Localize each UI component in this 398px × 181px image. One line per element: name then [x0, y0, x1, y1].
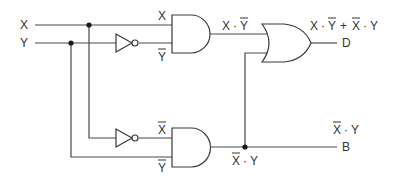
or-gate — [262, 24, 311, 62]
label-and1-ybar: Y — [158, 50, 166, 64]
label-input-y: Y — [20, 36, 28, 50]
inversion-bubble — [132, 40, 138, 46]
label-input-x: X — [20, 18, 28, 32]
label-output-d: D — [342, 36, 351, 50]
label-d-expr-x: X — [310, 19, 318, 33]
junction-dot-and2-out — [242, 144, 247, 149]
label-and2-out-y: Y — [250, 154, 258, 168]
not-gate-x — [116, 129, 138, 147]
label-and1-out-dot: · — [233, 19, 237, 33]
wire-x-branch — [89, 25, 116, 138]
label-and1-out-ybar: Y — [240, 19, 248, 33]
label-output-b: B — [342, 140, 350, 154]
junction-dot-y — [68, 40, 73, 45]
and-gate-2 — [172, 128, 211, 167]
label-d-expr-plus: + — [340, 19, 347, 33]
not-gate-y — [116, 34, 138, 52]
label-d-expr-dot2: · — [363, 19, 367, 33]
label-and1-x: X — [158, 9, 166, 23]
logic-circuit-diagram: X Y X Y X · Y X · Y + X · Y D X Y X · Y … — [0, 0, 398, 181]
label-b-expr-y: Y — [351, 123, 359, 137]
label-and2-out-dot: · — [243, 154, 247, 168]
and-gate-1 — [172, 15, 210, 53]
wire-and2-to-or — [245, 53, 268, 147]
junction-dot-x — [86, 22, 91, 27]
label-and1-out-x: X — [222, 19, 230, 33]
label-and2-out-xbar: X — [232, 154, 240, 168]
label-d-expr-xbar: X — [352, 19, 360, 33]
label-d-expr-dot1: · — [321, 19, 325, 33]
label-b-expr-xbar: X — [333, 123, 341, 137]
label-and2-ybar: Y — [158, 161, 166, 175]
inversion-bubble — [132, 135, 138, 141]
label-d-expr-y: Y — [370, 19, 378, 33]
label-d-expr-ybar: Y — [328, 19, 336, 33]
label-b-expr-dot: · — [344, 123, 348, 137]
label-and2-xbar: X — [158, 123, 166, 137]
